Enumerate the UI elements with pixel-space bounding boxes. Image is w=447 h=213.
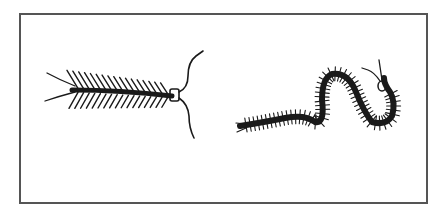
millipede-drawing [236, 60, 401, 132]
myriapod-illustration [0, 0, 447, 213]
centipede-drawing [45, 51, 203, 138]
